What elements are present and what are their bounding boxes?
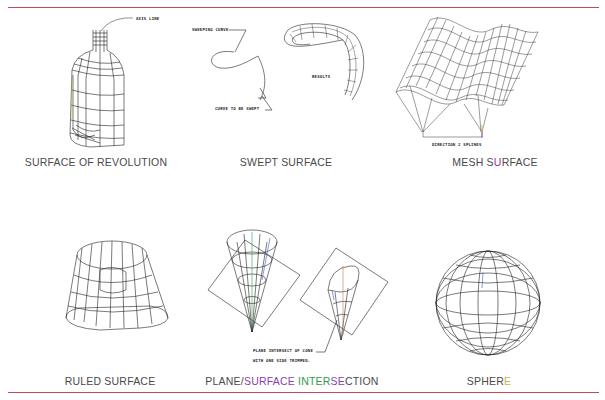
caption-part: PLANE/ xyxy=(205,375,244,387)
bottom-rule xyxy=(8,392,599,393)
figure-plane-surface-intersection: PLANE INTERSECT OF CONE WITH ONE SIDE TR… xyxy=(200,200,410,400)
caption-part: SURFACE xyxy=(244,375,298,387)
annotation-with-one-side-trimmed: WITH ONE SIDE TRIMMED. xyxy=(253,358,310,363)
mesh-wireframe-icon xyxy=(390,0,605,200)
caption-mesh-surface: MESH SURFACE xyxy=(452,156,537,168)
sphere-wireframe-icon xyxy=(400,200,605,400)
caption-part: CTION xyxy=(345,375,379,387)
annotation-plane-intersect-of-cone: PLANE INTERSECT OF CONE xyxy=(253,348,313,353)
caption-part: E xyxy=(504,375,511,387)
cone-intersection-wireframe-icon xyxy=(200,200,410,400)
caption-part: INTER xyxy=(298,375,331,387)
figure-sphere: SPHERE xyxy=(400,200,605,400)
caption-part: SPHER xyxy=(467,375,504,387)
caption-part: MESH S xyxy=(452,156,493,168)
annotation-results: RESULTS xyxy=(312,74,330,79)
caption-swept-surface: SWEPT SURFACE xyxy=(240,156,332,168)
caption-part: RFACE xyxy=(502,156,538,168)
annotation-direction-2-splines: DIRECTION 2 SPLINES xyxy=(432,142,482,147)
caption-surface-of-revolution: SURFACE OF REVOLUTION xyxy=(25,156,167,168)
annotation-curve-to-be-swept: CURVE TO BE SWEPT xyxy=(215,106,259,111)
figure-mesh-surface: DIRECTION 2 SPLINES MESH SURFACE xyxy=(390,0,605,200)
caption-part: SE xyxy=(331,375,345,387)
figure-swept-surface: SWEEPING CURVE CURVE TO BE SWEPT RESULTS… xyxy=(180,0,400,200)
figure-ruled-surface: RULED SURFACE xyxy=(0,200,200,400)
annotation-sweeping-curve: SWEEPING CURVE xyxy=(192,27,229,32)
bottle-wireframe-icon xyxy=(0,0,200,200)
ruled-surface-wireframe-icon xyxy=(0,200,200,400)
figure-surface-of-revolution: AXIS LINE SURFACE OF REVOLUTION xyxy=(0,0,200,200)
annotation-axis-line: AXIS LINE xyxy=(136,16,159,21)
caption-ruled-surface: RULED SURFACE xyxy=(65,375,156,387)
caption-sphere: SPHERE xyxy=(467,375,511,387)
caption-plane-surface-intersection: PLANE/SURFACE INTERSECTION xyxy=(205,375,378,387)
